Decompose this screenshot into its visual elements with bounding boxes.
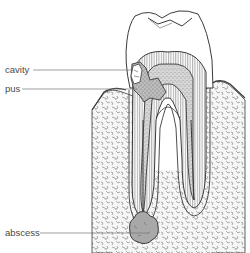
tooth-illustration bbox=[0, 0, 250, 253]
tooth-diagram: cavity pus abscess bbox=[0, 0, 250, 253]
label-pus: pus bbox=[5, 84, 20, 94]
jaw-bone bbox=[92, 81, 245, 253]
label-abscess: abscess bbox=[5, 228, 40, 238]
label-cavity: cavity bbox=[5, 65, 29, 75]
